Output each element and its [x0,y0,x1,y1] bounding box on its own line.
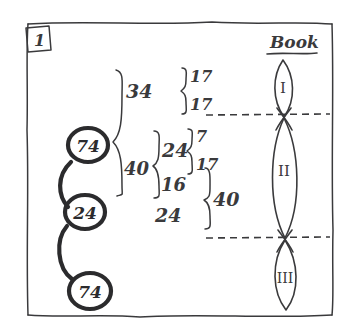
brace-level1-item-34: 34 [126,80,152,102]
chain-node-3[interactable]: 74 [69,273,111,309]
book-heading-underline [267,53,317,54]
section-divider-upper [206,114,330,115]
chain-node-3-label: 74 [78,282,102,302]
chain-node-1[interactable]: 74 [68,128,108,162]
brace-right-total: 40 [204,168,239,229]
brace-mid-item-17: 17 [196,155,218,174]
corner-badge: 1 [26,26,51,52]
frame-top-edge [28,22,332,24]
brace-mid-group: 24 16 [153,131,188,198]
brace-mid-item-16: 16 [161,174,187,195]
book-sections: I II III [273,60,297,310]
book-section-2-label: II [278,162,290,180]
brace-level1: 34 40 [113,70,152,196]
diagram-svg: 1 74 24 74 [0,0,356,336]
chain-node-2-label: 24 [72,203,97,223]
brace-mid-item-7: 7 [196,127,207,146]
brace-right-total-path [204,168,210,229]
brace-mid-item-24: 24 [161,139,188,161]
book-heading: Book [267,32,319,54]
frame-right-edge [332,24,333,315]
chain-connector-2 [59,226,72,279]
brace-top-item-17a: 17 [190,67,212,86]
brace-top-item-17b: 17 [190,95,212,114]
section-divider-lower [206,237,330,238]
node-chain: 74 24 74 [59,128,111,309]
book-section-1-label: I [280,79,286,97]
chain-node-1-label: 74 [76,136,100,156]
brace-right-total-label: 40 [213,188,239,210]
book-section-3-label: III [277,270,294,286]
book-heading-label: Book [269,32,319,52]
frame-bottom-edge [28,315,332,317]
brace-level1-item-40: 40 [124,158,150,179]
brace-top-pair-path [181,68,186,114]
brace-mid-pair: 7 17 [187,127,218,174]
book-section-2[interactable]: II [273,118,297,238]
figure-canvas: 1 74 24 74 [0,0,356,336]
corner-badge-label: 1 [34,31,45,50]
brace-top-pair: 17 17 [181,67,212,114]
frame-left-edge [27,24,28,315]
standalone-item-24: 24 [154,204,181,226]
chain-node-2[interactable]: 24 [65,195,105,229]
brace-level1-path [113,70,122,196]
brace-mid-pair-path [187,129,192,174]
brace-mid-group-path [153,131,159,198]
